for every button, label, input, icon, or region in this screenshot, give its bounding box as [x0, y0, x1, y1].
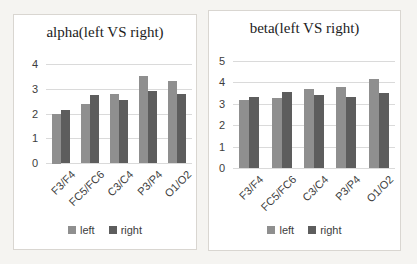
legend-item-left: left [68, 224, 95, 236]
chart-title: beta(left VS right) [209, 20, 400, 37]
legend-label: right [320, 224, 341, 236]
bar-right [314, 95, 324, 168]
bar-left [272, 98, 282, 168]
bar-right [90, 95, 99, 163]
y-axis-tick-label: 0 [20, 156, 38, 170]
legend-swatch-right [109, 226, 117, 234]
legend-item-right: right [109, 224, 142, 236]
y-axis-tick-label: 4 [207, 75, 225, 89]
bar-left [52, 114, 61, 164]
bar-right [379, 93, 389, 168]
bar-right [249, 97, 259, 168]
bar-right [119, 100, 128, 163]
legend-swatch-left [267, 226, 275, 234]
chart-panel-alpha: alpha(left VS right) 01234F3/F4FC5/FC6C3… [13, 14, 197, 250]
bar-left [110, 94, 119, 163]
bar-right [346, 97, 356, 168]
legend: leftright [209, 224, 400, 236]
y-axis-tick-label: 3 [20, 82, 38, 96]
bar-left [168, 81, 177, 163]
legend-swatch-left [68, 226, 76, 234]
gridline [233, 168, 395, 169]
legend-item-left: left [267, 224, 294, 236]
y-axis-tick-label: 4 [20, 57, 38, 71]
legend-item-right: right [308, 224, 341, 236]
bar-left [239, 100, 249, 168]
plot-area: 012345F3/F4FC5/FC6C3/C4P3/P4O1/O2 [233, 61, 395, 168]
bar-left [369, 79, 379, 168]
gridline [46, 163, 192, 164]
x-axis-category-label: O1/O2 [136, 168, 194, 226]
bar-left [336, 87, 346, 168]
legend: leftright [14, 224, 196, 236]
chart-panel-beta: beta(left VS right) 012345F3/F4FC5/FC6C3… [208, 10, 401, 251]
y-axis-tick-label: 0 [207, 161, 225, 175]
plot-area: 01234F3/F4FC5/FC6C3/C4P3/P4O1/O2 [46, 64, 192, 163]
bar-right [177, 94, 186, 163]
gridline [46, 64, 192, 65]
legend-label: right [121, 224, 142, 236]
legend-swatch-right [308, 226, 316, 234]
y-axis-tick-label: 3 [207, 97, 225, 111]
bar-left [81, 104, 90, 163]
bar-right [61, 110, 70, 163]
bar-right [148, 91, 157, 163]
bar-right [282, 92, 292, 168]
y-axis-tick-label: 5 [207, 54, 225, 68]
bar-left [139, 76, 148, 163]
y-axis-tick-label: 1 [20, 131, 38, 145]
y-axis-tick-label: 2 [20, 107, 38, 121]
gridline [233, 61, 395, 62]
chart-title: alpha(left VS right) [14, 24, 196, 41]
bar-left [304, 89, 314, 168]
y-axis-tick-label: 1 [207, 140, 225, 154]
legend-label: left [279, 224, 294, 236]
y-axis-tick-label: 2 [207, 118, 225, 132]
legend-label: left [80, 224, 95, 236]
